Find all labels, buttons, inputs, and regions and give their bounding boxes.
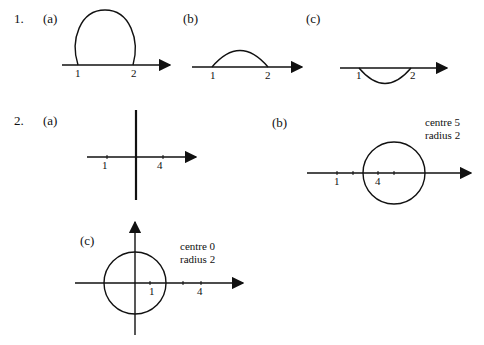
tick-label-2a-4: 4	[157, 159, 163, 171]
question-number-1: 1.	[14, 12, 24, 26]
note-2b-radius: radius 2	[425, 129, 460, 142]
arc-1a	[75, 10, 135, 65]
part-label-2a: (a)	[43, 114, 57, 128]
figure-2c	[75, 222, 243, 335]
tick-label-2c-4: 4	[197, 285, 203, 297]
note-2c-centre: centre 0	[180, 240, 215, 253]
part-label-1c: (c)	[306, 12, 320, 26]
arc-1b	[212, 51, 268, 68]
figure-1b	[192, 51, 302, 68]
part-label-2c: (c)	[80, 234, 94, 248]
part-label-1b: (b)	[183, 12, 198, 26]
tick-label-2c-1: 1	[149, 285, 155, 297]
tick-label-2b-1: 1	[334, 175, 340, 187]
note-2c-radius: radius 2	[180, 253, 215, 266]
tick-label-2b-4: 4	[375, 175, 381, 187]
part-label-1a: (a)	[43, 12, 57, 26]
note-2b-centre: centre 5	[425, 116, 460, 129]
part-label-2b: (b)	[272, 116, 287, 130]
tick-label-1c-1: 1	[356, 69, 362, 81]
note-2c: centre 0 radius 2	[180, 240, 215, 266]
tick-label-1a-2: 2	[131, 67, 137, 79]
tick-label-1c-2: 2	[410, 69, 416, 81]
figure-2a	[87, 110, 196, 200]
tick-label-1a-1: 1	[75, 67, 81, 79]
question-number-2: 2.	[14, 114, 24, 128]
diagram-canvas	[0, 0, 484, 345]
figure-2b	[307, 142, 471, 204]
note-2b: centre 5 radius 2	[425, 116, 460, 142]
arc-1c	[359, 68, 411, 84]
tick-label-2a-1: 1	[102, 159, 108, 171]
figure-1a	[62, 10, 170, 65]
tick-label-1b-1: 1	[210, 69, 216, 81]
tick-label-1b-2: 2	[265, 69, 271, 81]
